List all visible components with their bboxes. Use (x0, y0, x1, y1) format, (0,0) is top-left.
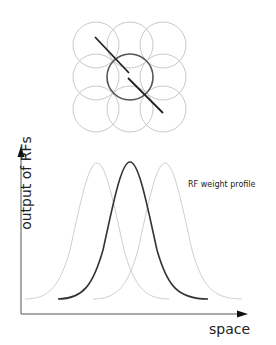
left-profile-curve (25, 163, 169, 299)
x-axis-label: space (209, 321, 250, 337)
x-axis-arrow-icon (237, 311, 248, 318)
rf-weight-profile-label: RF weight profile (188, 180, 256, 189)
diagram-canvas (0, 0, 276, 345)
highlighted-receptive-field (107, 54, 153, 100)
center-profile-curve (58, 162, 208, 299)
receptive-field-grid (73, 22, 186, 132)
axes (18, 146, 249, 318)
y-axis-label: output of RFs (18, 135, 34, 231)
